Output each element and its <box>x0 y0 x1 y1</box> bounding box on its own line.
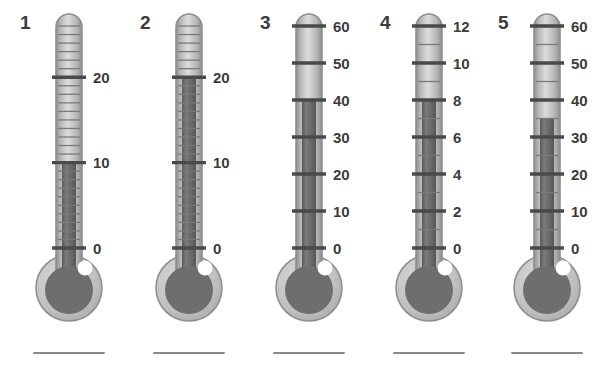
thermometer-5: 50102030405060 <box>478 0 597 375</box>
thermometer-graphic: 0102030405060 <box>240 0 360 340</box>
bulb-highlight-icon <box>556 261 571 276</box>
scale-label: 20 <box>333 166 350 183</box>
scale-label: 0 <box>333 240 341 257</box>
scale-label: 60 <box>333 18 350 35</box>
answer-line[interactable] <box>273 352 345 354</box>
scale-label: 4 <box>453 166 462 183</box>
scale-label: 20 <box>93 69 110 86</box>
scale-label: 60 <box>571 18 588 35</box>
scale-label: 30 <box>333 129 350 146</box>
scale-label: 2 <box>453 203 461 220</box>
scale-label: 0 <box>93 240 101 257</box>
scale-label: 40 <box>333 92 350 109</box>
thermometer-graphic: 01020 <box>0 0 120 340</box>
scale-label: 30 <box>571 129 588 146</box>
scale-label: 50 <box>571 55 588 72</box>
scale-label: 12 <box>453 18 470 35</box>
thermometer-graphic: 01020 <box>120 0 240 340</box>
scale-label: 10 <box>571 203 588 220</box>
thermometer-4: 4024681012 <box>360 0 480 375</box>
thermometer-2: 201020 <box>120 0 240 375</box>
thermometer-1: 101020 <box>0 0 120 375</box>
scale-label: 8 <box>453 92 461 109</box>
bulb-highlight-icon <box>78 261 93 276</box>
scale-label: 10 <box>453 55 470 72</box>
thermometer-3: 30102030405060 <box>240 0 360 375</box>
thermometer-graphic: 024681012 <box>360 0 480 340</box>
bulb-highlight-icon <box>198 261 213 276</box>
scale-label: 40 <box>571 92 588 109</box>
scale-label: 20 <box>571 166 588 183</box>
mercury-column <box>540 119 554 287</box>
mercury-column <box>302 100 316 286</box>
bulb-highlight-icon <box>318 261 333 276</box>
thermometer-graphic: 0102030405060 <box>478 0 597 340</box>
answer-line[interactable] <box>153 352 225 354</box>
scale-label: 0 <box>213 240 221 257</box>
answer-line[interactable] <box>511 352 583 354</box>
scale-label: 0 <box>571 240 579 257</box>
scale-label: 10 <box>93 154 110 171</box>
worksheet-canvas: 1010202010203010203040506040246810125010… <box>0 0 597 375</box>
scale-label: 10 <box>333 203 350 220</box>
scale-label: 0 <box>453 240 461 257</box>
answer-line[interactable] <box>393 352 465 354</box>
scale-label: 6 <box>453 129 461 146</box>
scale-label: 10 <box>213 154 230 171</box>
scale-label: 20 <box>213 69 230 86</box>
answer-line[interactable] <box>33 352 105 354</box>
bulb-highlight-icon <box>438 261 453 276</box>
mercury-column <box>182 77 196 286</box>
scale-label: 50 <box>333 55 350 72</box>
